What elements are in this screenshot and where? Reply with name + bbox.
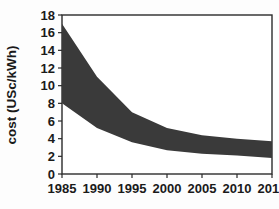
x-tick-label: 1990	[83, 181, 112, 196]
y-tick-label: 4	[48, 131, 56, 146]
x-tick-label: 1995	[118, 181, 147, 196]
y-tick-label: 2	[48, 149, 55, 164]
y-axis-title: cost (USc/kWh)	[4, 45, 19, 144]
x-tick-label: 1985	[48, 181, 77, 196]
x-tick-label: 2000	[153, 181, 182, 196]
y-tick-label: 8	[48, 96, 55, 111]
y-tick-label: 16	[41, 25, 55, 40]
y-tick-label: 6	[48, 114, 55, 129]
chart-canvas: 024681012141618 198519901995200020052010…	[0, 0, 279, 209]
x-tick-label: 2005	[188, 181, 217, 196]
y-tick-label: 18	[41, 8, 55, 23]
cost-projection-chart: 024681012141618 198519901995200020052010…	[0, 0, 279, 209]
x-tick-label: 2015	[258, 181, 279, 196]
y-tick-label: 0	[48, 167, 55, 182]
x-axis-tick-labels: 1985199019952000200520102015	[48, 181, 279, 196]
y-tick-label: 10	[41, 78, 55, 93]
y-axis-tick-labels: 024681012141618	[41, 8, 56, 182]
y-tick-label: 14	[41, 43, 56, 58]
y-tick-label: 12	[41, 61, 55, 76]
x-tick-label: 2010	[223, 181, 252, 196]
